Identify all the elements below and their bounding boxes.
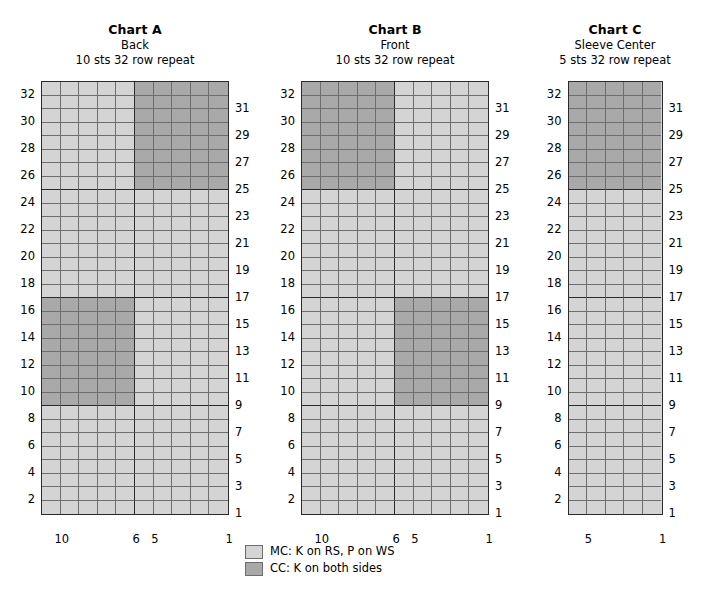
chart-cell — [451, 366, 470, 380]
chart-row — [302, 460, 488, 474]
chart-cell — [395, 271, 414, 285]
chart-cell — [302, 177, 321, 191]
row-label-1: 1 — [495, 500, 513, 527]
chart-cell — [469, 258, 488, 272]
chart-row — [42, 271, 228, 285]
chart-cell — [209, 298, 228, 312]
chart-cell — [339, 366, 358, 380]
chart-cell — [98, 109, 117, 123]
chart-cell — [98, 285, 117, 299]
chart-cell — [414, 82, 433, 96]
chart-row — [302, 136, 488, 150]
chart-cell — [643, 339, 662, 353]
chart-cell — [358, 460, 377, 474]
row-label-7: 7 — [495, 419, 513, 446]
chart-cell — [414, 366, 433, 380]
chart-cell — [135, 244, 154, 258]
chart-cell — [172, 447, 191, 461]
chart-cell — [339, 204, 358, 218]
chart-cell — [432, 231, 451, 245]
row-label-26: 26 — [544, 162, 562, 189]
chart-cell — [135, 258, 154, 272]
chart-row — [569, 447, 662, 461]
chart-row — [302, 352, 488, 366]
chart-cell — [154, 177, 173, 191]
row-label-27: 27 — [235, 149, 253, 176]
chart-cell — [469, 285, 488, 299]
legend: MC: K on RS, P on WSCC: K on both sides — [0, 545, 710, 579]
chart-cell — [135, 177, 154, 191]
chart-cell — [116, 231, 135, 245]
chart-row — [302, 163, 488, 177]
chart-cell — [414, 487, 433, 501]
chart-cell — [339, 501, 358, 515]
chart-cell — [624, 163, 643, 177]
chart-cell — [624, 231, 643, 245]
row-label-11: 11 — [495, 365, 513, 392]
chart-cell — [42, 109, 61, 123]
chart-cell — [79, 379, 98, 393]
chart-cell — [209, 82, 228, 96]
chart-row — [42, 150, 228, 164]
chart-cell — [451, 285, 470, 299]
chart-cell — [339, 163, 358, 177]
chart-row — [302, 298, 488, 312]
chart-cell — [432, 271, 451, 285]
chart-row — [42, 231, 228, 245]
chart-cell — [587, 163, 606, 177]
chart-row — [569, 271, 662, 285]
chart-cell — [569, 379, 588, 393]
chart-cell — [395, 204, 414, 218]
chart-cell — [376, 420, 395, 434]
chart-cell — [321, 298, 340, 312]
chart-cell — [643, 312, 662, 326]
chart-cell — [643, 258, 662, 272]
chart-cell — [643, 190, 662, 204]
legend-item-cc: CC: K on both sides — [245, 562, 465, 576]
chart-cell — [209, 447, 228, 461]
row-label-5: 5 — [235, 446, 253, 473]
chart-cell — [469, 352, 488, 366]
chart-cell — [135, 271, 154, 285]
chart-cell — [321, 190, 340, 204]
row-label-11: 11 — [235, 365, 253, 392]
row-label-29: 29 — [669, 122, 687, 149]
chart-cell — [42, 420, 61, 434]
chart-cell — [321, 136, 340, 150]
chart-cell — [569, 217, 588, 231]
chart-cell — [376, 177, 395, 191]
chart-cell — [79, 285, 98, 299]
chart-cell — [79, 312, 98, 326]
chart-cell — [209, 109, 228, 123]
chart-cell — [569, 109, 588, 123]
chart-cell — [321, 109, 340, 123]
chart-cell — [302, 312, 321, 326]
chart-cell — [191, 217, 210, 231]
chart-cell — [358, 474, 377, 488]
chart-cell — [61, 217, 80, 231]
chart-cell — [451, 258, 470, 272]
chart-cell — [98, 393, 117, 407]
chart-cell — [339, 433, 358, 447]
row-label-18: 18 — [17, 270, 35, 297]
row-label-22: 22 — [277, 216, 295, 243]
chart-cell — [643, 244, 662, 258]
chart-cell — [643, 217, 662, 231]
chart-a-grid — [41, 81, 229, 515]
chart-cell — [358, 271, 377, 285]
chart-cell — [569, 487, 588, 501]
chart-cell — [42, 136, 61, 150]
chart-cell — [98, 136, 117, 150]
chart-cell — [98, 366, 117, 380]
chart-cell — [432, 447, 451, 461]
chart-row — [569, 379, 662, 393]
chart-cell — [569, 433, 588, 447]
chart-cell — [42, 82, 61, 96]
chart-cell — [302, 136, 321, 150]
chart-cell — [209, 231, 228, 245]
row-label-14: 14 — [17, 324, 35, 351]
chart-cell — [321, 487, 340, 501]
chart-cell — [79, 487, 98, 501]
chart-cell — [606, 339, 625, 353]
chart-cell — [135, 474, 154, 488]
